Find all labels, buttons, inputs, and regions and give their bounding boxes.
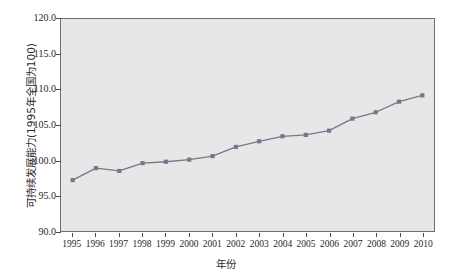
x-tick-mark (189, 233, 190, 237)
x-tick-label: 2010 (403, 238, 443, 250)
x-tick-mark (72, 233, 73, 237)
data-point-marker (397, 100, 401, 104)
data-point-marker (280, 134, 284, 138)
series-line (73, 95, 423, 180)
x-tick-mark (119, 233, 120, 237)
y-tick-mark (56, 18, 61, 19)
x-tick-mark (330, 233, 331, 237)
x-axis-title: 年份 (0, 256, 451, 271)
data-point-marker (94, 166, 98, 170)
x-tick-mark (423, 233, 424, 237)
data-point-marker (327, 129, 331, 133)
x-tick-mark (283, 233, 284, 237)
data-point-marker (374, 110, 378, 114)
y-tick-label: 100.0 (22, 156, 56, 166)
series-canvas (61, 19, 434, 231)
x-tick-mark (400, 233, 401, 237)
y-tick-mark (56, 232, 61, 233)
x-tick-mark (142, 233, 143, 237)
x-tick-mark (236, 233, 237, 237)
y-tick-label: 90.0 (22, 227, 56, 237)
x-tick-mark (306, 233, 307, 237)
x-axis-tick-labels: 1995199619971998199920002001200220032004… (0, 238, 451, 252)
x-tick-mark (376, 233, 377, 237)
y-tick-label: 120.0 (22, 13, 56, 23)
y-tick-mark (56, 54, 61, 55)
y-tick-label: 105.0 (22, 120, 56, 130)
data-point-marker (71, 178, 75, 182)
data-point-marker (141, 161, 145, 165)
y-tick-label: 95.0 (22, 191, 56, 201)
y-tick-mark (56, 196, 61, 197)
y-tick-mark (56, 125, 61, 126)
data-point-marker (257, 139, 261, 143)
data-point-marker (210, 154, 214, 158)
y-tick-label: 115.0 (22, 49, 56, 59)
data-point-marker (117, 169, 121, 173)
x-tick-mark (259, 233, 260, 237)
data-point-marker (164, 160, 168, 164)
x-tick-mark (95, 233, 96, 237)
data-point-marker (350, 117, 354, 121)
y-tick-mark (56, 161, 61, 162)
data-point-marker (187, 158, 191, 162)
data-point-marker (304, 133, 308, 137)
x-tick-mark (212, 233, 213, 237)
chart-figure: 可持续发展能力(1995年全国为100) 90.095.0100.0105.01… (0, 0, 451, 277)
y-axis-tick-labels: 90.095.0100.0105.0110.0115.0120.0 (22, 0, 56, 277)
x-tick-mark (353, 233, 354, 237)
x-tick-mark (165, 233, 166, 237)
plot-area (60, 18, 435, 232)
data-point-marker (234, 145, 238, 149)
data-point-marker (420, 93, 424, 97)
y-tick-mark (56, 89, 61, 90)
y-tick-label: 110.0 (22, 84, 56, 94)
